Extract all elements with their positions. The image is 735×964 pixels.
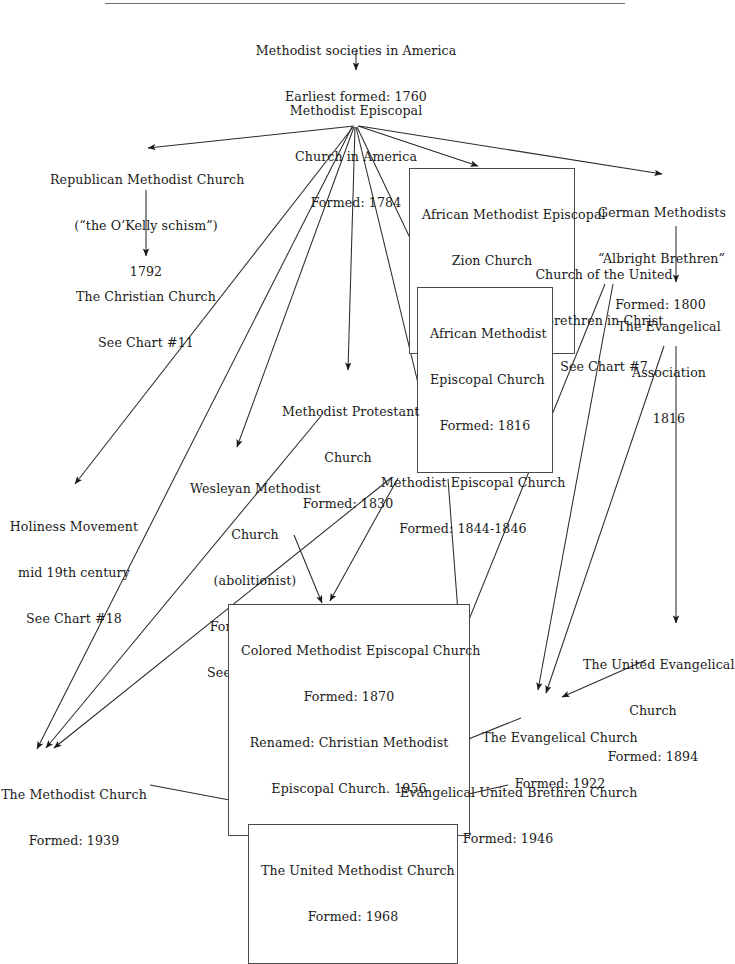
node-line: Church in America bbox=[272, 149, 440, 164]
node-holiness-movement: Holiness Movement mid 19th century See C… bbox=[3, 488, 145, 657]
node-line: The United Methodist Church bbox=[261, 863, 445, 878]
node-methodist-episcopal-church-1844: Methodist Episcopal Church Formed: 1844-… bbox=[381, 444, 545, 567]
node-line: Episcopal Church bbox=[430, 372, 540, 387]
node-line: (“the O’Kelly schism”) bbox=[50, 218, 242, 233]
node-line: Formed: 1870 bbox=[241, 689, 457, 704]
top-horizontal-rule bbox=[105, 3, 625, 4]
node-the-christian-church: The Christian Church See Chart #11 bbox=[64, 258, 228, 381]
node-line: Republican Methodist Church bbox=[50, 172, 242, 187]
node-line: African Methodist bbox=[430, 326, 540, 341]
node-line: African Methodist Episcopal bbox=[422, 207, 562, 222]
node-line: Church of the United bbox=[520, 267, 688, 282]
node-line: The United Evangelical bbox=[583, 657, 723, 672]
node-line: Formed: 1844-1846 bbox=[381, 521, 545, 536]
node-line: Methodist Episcopal Church bbox=[381, 475, 545, 490]
node-line: Evangelical United Brethren Church bbox=[400, 785, 616, 800]
node-line: The Christian Church bbox=[64, 289, 228, 304]
node-line: Colored Methodist Episcopal Church bbox=[241, 643, 457, 658]
node-line: Holiness Movement bbox=[3, 519, 145, 534]
node-line: Formed: 1939 bbox=[0, 833, 148, 848]
node-line: See Chart #18 bbox=[3, 611, 145, 626]
node-line: Methodist Episcopal bbox=[272, 103, 440, 118]
node-line: The Methodist Church bbox=[0, 787, 148, 802]
node-the-evangelical-association: The Evangelical Association 1816 bbox=[615, 288, 723, 457]
node-line: Association bbox=[615, 365, 723, 380]
node-the-united-methodist-church: The United Methodist Church Formed: 1968 bbox=[248, 824, 458, 964]
node-line: Church bbox=[190, 527, 320, 542]
node-line: Methodist societies in America bbox=[242, 43, 470, 58]
node-line: Formed: 1816 bbox=[430, 418, 540, 433]
node-line: See Chart #11 bbox=[64, 335, 228, 350]
node-line: Formed: 1968 bbox=[261, 909, 445, 924]
node-line: Methodist Protestant bbox=[282, 404, 414, 419]
node-line: The Evangelical Church bbox=[482, 730, 638, 745]
node-line: 1816 bbox=[615, 411, 723, 426]
node-line: mid 19th century bbox=[3, 565, 145, 580]
node-line: Wesleyan Methodist bbox=[190, 481, 320, 496]
node-line: German Methodists bbox=[598, 205, 723, 220]
node-the-methodist-church-1939: The Methodist Church Formed: 1939 bbox=[0, 756, 148, 879]
node-line: (abolitionist) bbox=[190, 573, 320, 588]
node-line: Renamed: Christian Methodist bbox=[241, 735, 457, 750]
node-line: The Evangelical bbox=[615, 319, 723, 334]
